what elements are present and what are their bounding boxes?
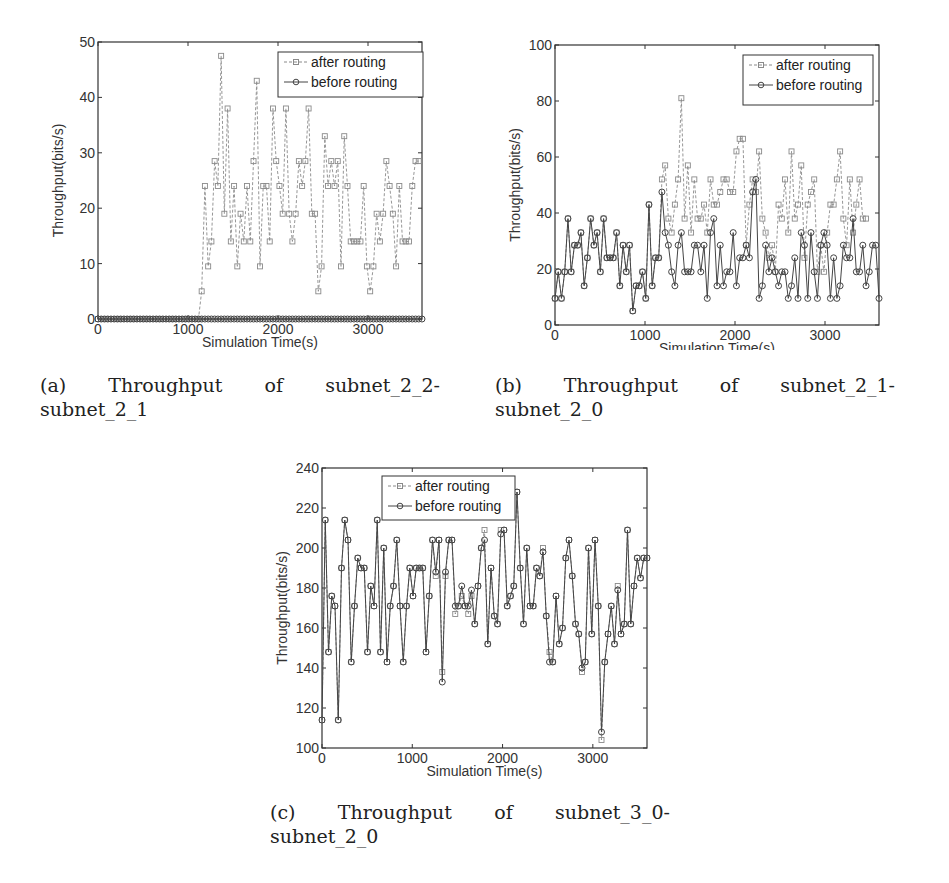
- chart-a-plot: 010002000300001020304050Simulation Time(…: [40, 10, 450, 350]
- chart-b-plot: 0100020003000020406080100Simulation Time…: [500, 10, 930, 350]
- y-tick-label: 60: [536, 149, 552, 165]
- y-tick-label: 40: [536, 205, 552, 221]
- legend-label: after routing: [415, 478, 490, 494]
- x-tick-label: 0: [94, 321, 102, 337]
- y-tick-label: 200: [296, 540, 320, 556]
- legend-label: after routing: [776, 57, 851, 73]
- chart-b: 0100020003000020406080100Simulation Time…: [500, 10, 930, 350]
- x-axis-label: Simulation Time(s): [659, 340, 775, 350]
- caption-b-word2: of: [720, 373, 738, 397]
- x-tick-label: 1000: [397, 750, 428, 766]
- caption-b: (b) Throughput of subnet_2_1- subnet_2_0: [495, 373, 895, 421]
- y-tick-label: 0: [87, 311, 95, 327]
- caption-b-line2: subnet_2_0: [495, 397, 895, 421]
- chart-c-plot: 0100020003000100120140160180200220240Sim…: [270, 440, 700, 780]
- y-tick-label: 160: [296, 620, 320, 636]
- x-tick-label: 1000: [172, 321, 203, 337]
- legend-label: before routing: [311, 74, 397, 90]
- caption-c-line2: subnet_2_0: [270, 824, 670, 848]
- caption-a-label: (a): [40, 373, 66, 397]
- chart-a: 010002000300001020304050Simulation Time(…: [40, 10, 450, 350]
- caption-b-label: (b): [495, 373, 522, 397]
- legend-label: after routing: [311, 54, 386, 70]
- caption-a-word2: of: [265, 373, 283, 397]
- y-tick-label: 120: [296, 700, 320, 716]
- x-axis-label: Simulation Time(s): [427, 763, 543, 779]
- x-tick-label: 3000: [352, 321, 383, 337]
- caption-b-word3: subnet_2_1-: [780, 373, 895, 397]
- caption-c-label: (c): [270, 800, 295, 824]
- y-axis-label: Throughput(bits/s): [507, 128, 523, 242]
- x-axis-label: Simulation Time(s): [202, 334, 318, 350]
- y-tick-label: 50: [79, 34, 95, 50]
- y-tick-label: 140: [296, 660, 320, 676]
- legend-label: before routing: [415, 498, 501, 514]
- caption-c: (c) Throughput of subnet_3_0- subnet_2_0: [270, 800, 670, 848]
- x-tick-label: 3000: [809, 327, 840, 343]
- caption-c-word1: Throughput: [338, 800, 452, 824]
- x-tick-label: 1000: [629, 327, 660, 343]
- chart-c: 0100020003000100120140160180200220240Sim…: [270, 440, 700, 780]
- y-tick-label: 20: [79, 200, 95, 216]
- caption-a-word3: subnet_2_2-: [325, 373, 440, 397]
- legend-label: before routing: [776, 77, 862, 93]
- y-tick-label: 40: [79, 89, 95, 105]
- legend: after routingbefore routing: [382, 476, 515, 520]
- caption-c-word3: subnet_3_0-: [555, 800, 670, 824]
- y-tick-label: 100: [529, 37, 553, 53]
- legend: after routingbefore routing: [278, 52, 423, 97]
- caption-b-word1: Throughput: [564, 373, 678, 397]
- y-tick-label: 100: [296, 740, 320, 756]
- y-tick-label: 80: [536, 93, 552, 109]
- caption-a-word1: Throughput: [108, 373, 222, 397]
- caption-a-line2: subnet_2_1: [40, 397, 440, 421]
- caption-c-word2: of: [494, 800, 512, 824]
- y-tick-label: 30: [79, 145, 95, 161]
- y-tick-label: 10: [79, 256, 95, 272]
- legend: after routingbefore routing: [743, 55, 873, 105]
- y-tick-label: 180: [296, 580, 320, 596]
- caption-a: (a) Throughput of subnet_2_2- subnet_2_1: [40, 373, 440, 421]
- x-tick-label: 0: [318, 750, 326, 766]
- y-tick-label: 220: [296, 500, 320, 516]
- x-tick-label: 0: [551, 327, 559, 343]
- y-tick-label: 20: [536, 261, 552, 277]
- x-tick-label: 3000: [577, 750, 608, 766]
- y-axis-label: Throughput(bits/s): [274, 551, 290, 665]
- y-tick-label: 0: [544, 317, 552, 333]
- y-tick-label: 240: [296, 460, 320, 476]
- y-axis-label: Throughput(bits/s): [50, 124, 66, 238]
